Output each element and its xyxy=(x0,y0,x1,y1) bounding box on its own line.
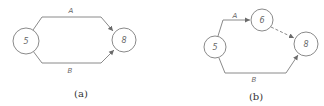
node-label: 5 xyxy=(23,37,28,46)
node-label: 6 xyxy=(259,16,264,25)
edge-a-activity-b xyxy=(33,50,114,63)
node-b-5: 5 xyxy=(204,36,226,58)
edge-label-a: A xyxy=(232,12,238,20)
node-label: 8 xyxy=(121,36,126,45)
caption-a: (a) xyxy=(74,88,88,99)
edge-b-activity-a xyxy=(218,20,250,36)
edge-b-activity-b xyxy=(219,55,298,73)
network-diagrams: 5 8 A B (a) 5 6 8 A B (b) xyxy=(0,0,324,106)
node-b-8: 8 xyxy=(294,32,318,56)
edge-label-a: A xyxy=(68,7,74,15)
node-a-8: 8 xyxy=(112,28,136,52)
edge-label-b: B xyxy=(252,76,257,84)
node-label: 8 xyxy=(303,40,308,49)
edge-label-b: B xyxy=(68,67,73,75)
node-b-6: 6 xyxy=(251,9,273,31)
edge-b-dummy xyxy=(271,27,294,38)
caption-b: (b) xyxy=(249,91,263,102)
edge-a-activity-a xyxy=(33,17,113,31)
node-label: 5 xyxy=(212,43,217,52)
diagram-a: 5 8 A B (a) xyxy=(13,7,136,99)
node-a-5: 5 xyxy=(13,28,39,54)
diagram-b: 5 6 8 A B (b) xyxy=(204,9,318,102)
